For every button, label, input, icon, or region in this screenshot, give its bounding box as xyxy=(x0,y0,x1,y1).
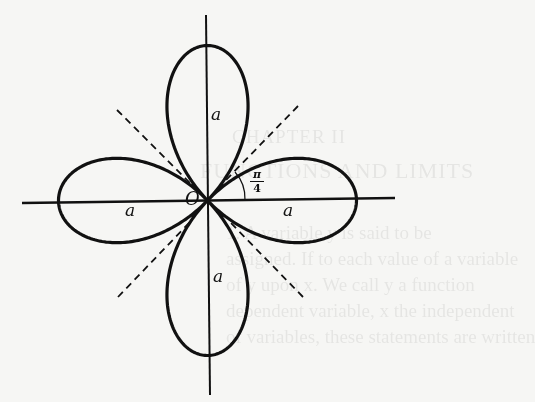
y-axis xyxy=(206,15,210,395)
angle-denominator: 4 xyxy=(250,182,264,194)
leaf-label-bottom: a xyxy=(213,268,223,285)
origin-label: O xyxy=(185,190,200,208)
leaf-label-right: a xyxy=(283,202,293,219)
leaf-label-top: a xyxy=(211,106,221,123)
angle-label: π 4 xyxy=(250,169,264,194)
leaf-label-left: a xyxy=(125,202,135,219)
dashed-line-upper-left xyxy=(117,110,190,183)
dashed-line-lower-right xyxy=(228,220,303,297)
angle-numerator: π xyxy=(250,169,264,182)
dashed-line-lower-left xyxy=(118,222,190,297)
